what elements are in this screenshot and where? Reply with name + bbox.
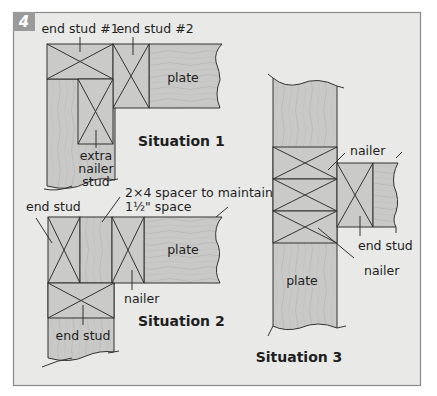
label-plate-2: plate	[167, 242, 199, 257]
framing-corner-diagram: 4 end stud #1 end stud #2 plate extra na…	[0, 0, 437, 396]
label-end-stud-2: end stud #2	[116, 21, 193, 36]
plate-right	[373, 163, 398, 227]
label-end-stud-1: end stud #1	[41, 21, 118, 36]
label-spacer-1: 2×4 spacer to maintain	[125, 185, 273, 200]
situation-1-title: Situation 1	[138, 133, 225, 149]
label-plate-1: plate	[167, 70, 199, 85]
label-end-stud-3: end stud	[358, 238, 413, 253]
label-extra-3: stud	[82, 174, 109, 189]
label-end-stud-top: end stud	[26, 199, 81, 214]
spacer	[80, 217, 112, 283]
situation-3-title: Situation 3	[256, 349, 343, 365]
figure-number-badge: 4	[13, 12, 35, 31]
figure-number: 4	[18, 13, 29, 31]
label-end-stud-bottom: end stud	[56, 328, 111, 343]
label-nailer-2: nailer	[124, 291, 160, 306]
label-plate-3: plate	[286, 273, 318, 288]
situation-2-title: Situation 2	[138, 313, 225, 329]
label-spacer-2: 1½" space	[125, 199, 192, 214]
label-nailer-bottom: nailer	[364, 263, 400, 278]
label-nailer-top: nailer	[350, 143, 386, 158]
